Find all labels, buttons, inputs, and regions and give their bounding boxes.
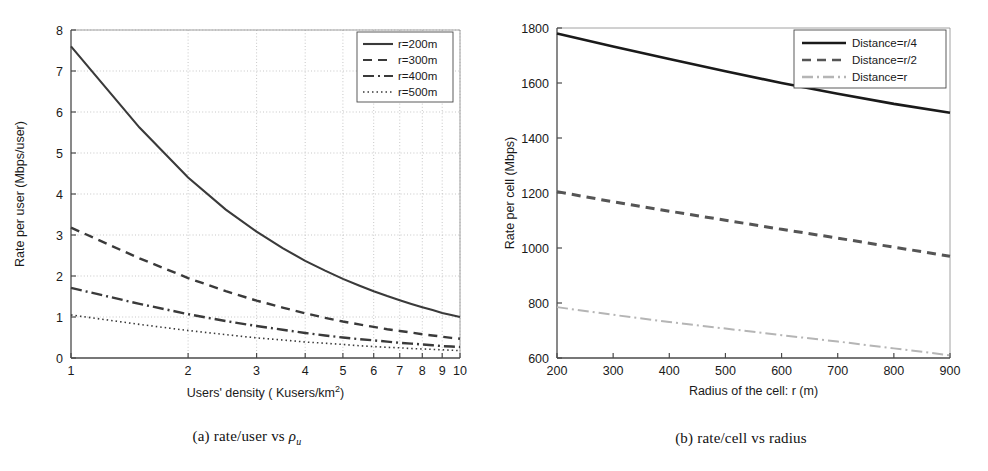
x-tick-label: 6 (370, 364, 377, 378)
caption-a: (a) rate/user vs ρu (0, 428, 494, 447)
y-tick-label: 6 (56, 106, 63, 120)
y-axis-title: Rate per cell (Mbps) (503, 137, 517, 250)
x-tick-label: 800 (883, 364, 904, 378)
figure-a-rate-per-user: 01234567812345678910Rate per user (Mbps/… (0, 0, 494, 471)
x-tick-label: 900 (940, 364, 961, 378)
y-axis-title: Rate per user (Mbps/user) (13, 121, 27, 267)
y-tick-label: 5 (56, 147, 63, 161)
series-line-r-400m (71, 288, 460, 347)
caption-a-prefix: (a) (193, 428, 210, 444)
y-tick-label: 1 (56, 311, 63, 325)
x-tick-label: 5 (339, 364, 346, 378)
y-tick-label: 1200 (521, 187, 549, 201)
chart-a-canvas: 01234567812345678910Rate per user (Mbps/… (0, 0, 494, 400)
chart-a-group: 01234567812345678910Rate per user (Mbps/… (13, 24, 467, 401)
chart-b-canvas: 6008001000120014001600180020030040050060… (494, 0, 988, 400)
legend-label-Distance-r: Distance=r (852, 71, 907, 83)
series-line-Distance-r-2 (557, 192, 950, 257)
series-line-Distance-r (557, 307, 950, 355)
y-tick-label: 2 (56, 270, 63, 284)
x-tick-label: 200 (547, 364, 568, 378)
series-line-r-300m (71, 228, 460, 339)
legend-label-Distance-r-4: Distance=r/4 (852, 37, 917, 49)
caption-a-subscript: u (296, 436, 301, 447)
y-tick-label: 1400 (521, 132, 549, 146)
y-tick-label: 4 (56, 188, 63, 202)
x-tick-label: 8 (419, 364, 426, 378)
x-tick-label: 500 (715, 364, 736, 378)
caption-a-text: rate/user vs (214, 428, 285, 444)
y-tick-label: 1800 (521, 22, 549, 36)
x-tick-label: 4 (302, 364, 309, 378)
y-tick-label: 7 (56, 65, 63, 79)
y-tick-label: 800 (528, 297, 549, 311)
x-axis-title: Radius of the cell: r (m) (689, 384, 818, 398)
y-tick-label: 0 (56, 352, 63, 366)
legend-label-Distance-r-2: Distance=r/2 (852, 54, 917, 66)
y-tick-label: 1600 (521, 77, 549, 91)
legend-label-r-400m: r=400m (398, 70, 437, 82)
y-tick-label: 3 (56, 229, 63, 243)
legend-label-r-200m: r=200m (398, 38, 437, 50)
y-tick-label: 1000 (521, 242, 549, 256)
chart-b-group: 6008001000120014001600180020030040050060… (503, 22, 960, 399)
x-tick-label: 1 (68, 364, 75, 378)
figure-b-rate-per-cell: 6008001000120014001600180020030040050060… (494, 0, 988, 471)
x-tick-label: 2 (185, 364, 192, 378)
x-tick-label: 700 (827, 364, 848, 378)
x-tick-label: 300 (603, 364, 624, 378)
x-tick-label: 600 (771, 364, 792, 378)
x-tick-label: 400 (659, 364, 680, 378)
caption-b-text: rate/cell vs radius (697, 430, 807, 446)
x-tick-label: 10 (453, 364, 467, 378)
series-line-r-500m (71, 315, 460, 351)
caption-b: (b) rate/cell vs radius (494, 430, 988, 447)
x-tick-label: 9 (439, 364, 446, 378)
figure-page: 01234567812345678910Rate per user (Mbps/… (0, 0, 988, 471)
x-tick-label: 3 (253, 364, 260, 378)
legend-label-r-500m: r=500m (398, 86, 437, 98)
legend-label-r-300m: r=300m (398, 54, 437, 66)
y-tick-label: 8 (56, 24, 63, 38)
caption-b-prefix: (b) (675, 430, 693, 446)
x-axis-title-base: Users' density ( Kusers/km (187, 386, 335, 400)
x-axis-title-tail: ) (340, 386, 344, 400)
x-axis-title: Users' density ( Kusers/km2) (187, 384, 344, 400)
x-tick-label: 7 (396, 364, 403, 378)
